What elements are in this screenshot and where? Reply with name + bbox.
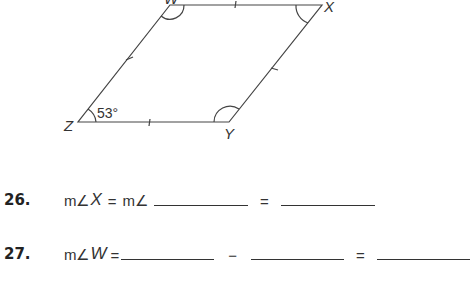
answer-blank-2[interactable] [281, 204, 375, 206]
angle-variable-w: W [91, 244, 107, 264]
angle-variable-x: X [91, 190, 102, 210]
measure-angle-symbol: m∠ [123, 192, 149, 210]
parallelogram-figure: W X Y Z 53° [0, 0, 468, 150]
answer-blank-2[interactable] [251, 258, 344, 260]
answer-blank-1[interactable] [154, 204, 248, 206]
vertex-label-y: Y [224, 125, 235, 142]
measure-angle-symbol: m∠ [64, 246, 90, 264]
equals-sign: = [356, 247, 365, 264]
measure-angle-symbol: m∠ [64, 192, 90, 210]
answer-blank-1[interactable] [121, 258, 214, 260]
problem-number: 26. [4, 191, 31, 209]
answer-blank-3[interactable] [377, 258, 470, 260]
problem-number: 27. [4, 245, 31, 263]
vertex-label-w: W [164, 0, 180, 7]
equals-sign: = [108, 193, 117, 210]
vertex-label-z: Z [63, 117, 74, 134]
equals-sign: = [260, 193, 269, 210]
vertex-label-x: X [323, 0, 335, 15]
angle-label-z: 53° [97, 105, 118, 121]
equals-sign: = [111, 247, 120, 264]
minus-sign: − [228, 247, 237, 264]
